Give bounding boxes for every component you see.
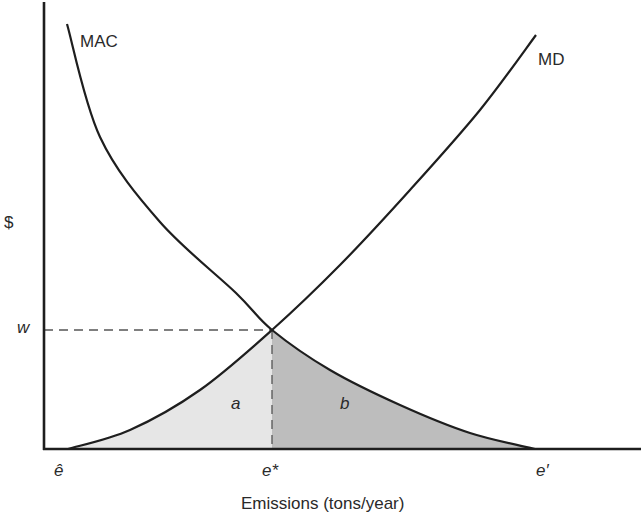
region-a-area [68, 330, 272, 449]
md-label: MD [538, 51, 564, 68]
x-axis-label: Emissions (tons/year) [241, 495, 404, 512]
region-b-area [272, 330, 535, 449]
y-axis-label: $ [4, 214, 13, 231]
e-star-tick-label: e* [262, 462, 278, 479]
w-tick-label: w [17, 319, 29, 336]
region-a-label: a [231, 395, 240, 412]
mac-label: MAC [80, 33, 118, 50]
region-b-label: b [340, 395, 349, 412]
e-hat-tick-label: ê [54, 462, 63, 479]
e-prime-tick-label: e′ [536, 462, 549, 479]
chart-canvas [0, 0, 641, 518]
